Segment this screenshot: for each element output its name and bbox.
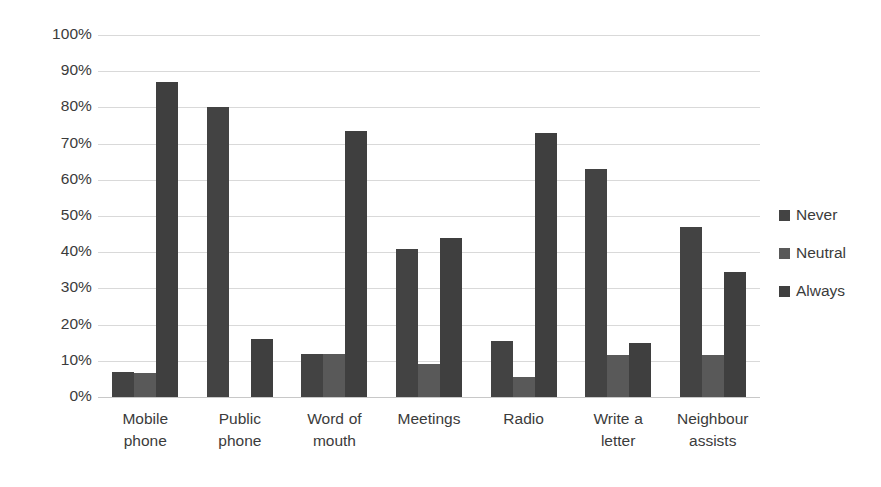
bar [702, 355, 724, 397]
bar [207, 107, 229, 397]
bar [396, 249, 418, 397]
x-axis: MobilephonePublicphoneWord ofmouthMeetin… [98, 402, 760, 482]
x-axis-category-label: Meetings [382, 408, 477, 430]
legend-swatch-icon [779, 248, 790, 259]
bar-group [585, 35, 651, 397]
x-axis-category-line: phone [193, 430, 288, 452]
y-axis-tick-label: 90% [14, 61, 92, 79]
x-axis-category-line: letter [571, 430, 666, 452]
x-axis-category-line: Meetings [382, 408, 477, 430]
bar [491, 341, 513, 397]
x-axis-category-label: Word ofmouth [287, 408, 382, 452]
chart-legend: NeverNeutralAlways [779, 196, 879, 310]
x-axis-category-line: Write a [571, 408, 666, 430]
bar [112, 372, 134, 397]
y-axis-tick-label: 60% [14, 170, 92, 188]
y-axis-tick-label: 50% [14, 206, 92, 224]
x-axis-category-line: mouth [287, 430, 382, 452]
legend-item[interactable]: Always [779, 272, 879, 310]
y-axis-tick-label: 30% [14, 278, 92, 296]
y-axis-tick-label: 70% [14, 134, 92, 152]
bar-group [396, 35, 462, 397]
bar [513, 377, 535, 397]
bar [607, 355, 629, 397]
y-axis-tick-label: 80% [14, 97, 92, 115]
x-axis-category-label: Radio [476, 408, 571, 430]
bar [134, 373, 156, 397]
bar [535, 133, 557, 397]
bar [156, 82, 178, 397]
x-axis-category-line: assists [665, 430, 760, 452]
bar-group [112, 35, 178, 397]
legend-item[interactable]: Neutral [779, 234, 879, 272]
x-axis-category-label: Publicphone [193, 408, 288, 452]
bar [440, 238, 462, 397]
x-axis-category-line: Radio [476, 408, 571, 430]
bar [345, 131, 367, 397]
bar-group [491, 35, 557, 397]
x-axis-category-label: Write aletter [571, 408, 666, 452]
bars-layer [98, 35, 760, 397]
y-axis-tick-label: 10% [14, 351, 92, 369]
bar [724, 272, 746, 397]
x-axis-category-label: Neighbourassists [665, 408, 760, 452]
bar-group [680, 35, 746, 397]
legend-item-label: Never [796, 206, 837, 224]
bar [301, 354, 323, 397]
x-axis-category-line: Neighbour [665, 408, 760, 430]
bar [629, 343, 651, 397]
x-axis-category-line: Public [193, 408, 288, 430]
x-axis-category-line: Mobile [98, 408, 193, 430]
bar-chart: 100%90%80%70%60%50%40%30%20%10%0% Mobile… [0, 0, 881, 487]
bar [418, 364, 440, 397]
x-axis-category-line: phone [98, 430, 193, 452]
bar [585, 169, 607, 397]
gridline [98, 397, 760, 398]
legend-item[interactable]: Never [779, 196, 879, 234]
y-axis-tick-label: 20% [14, 315, 92, 333]
y-axis-tick-label: 40% [14, 242, 92, 260]
legend-item-label: Neutral [796, 244, 846, 262]
bar-group [207, 35, 273, 397]
bar [680, 227, 702, 397]
legend-item-label: Always [796, 282, 845, 300]
legend-swatch-icon [779, 210, 790, 221]
legend-swatch-icon [779, 286, 790, 297]
bar-group [301, 35, 367, 397]
y-axis-tick-label: 0% [14, 387, 92, 405]
y-axis: 100%90%80%70%60%50%40%30%20%10%0% [8, 0, 92, 487]
x-axis-category-label: Mobilephone [98, 408, 193, 452]
x-axis-category-line: Word of [287, 408, 382, 430]
bar [251, 339, 273, 397]
bar [323, 354, 345, 397]
y-axis-tick-label: 100% [14, 25, 92, 43]
